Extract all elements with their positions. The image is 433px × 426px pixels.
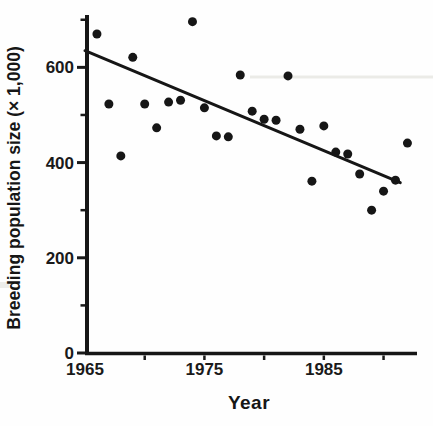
data-point (284, 71, 293, 80)
data-point (272, 116, 281, 125)
data-point (319, 121, 328, 130)
data-point (128, 53, 137, 62)
y-tick-label: 400 (46, 154, 74, 173)
data-point (224, 132, 233, 141)
data-point (236, 70, 245, 79)
trend-line (85, 51, 400, 183)
data-point (260, 115, 269, 124)
data-point (343, 150, 352, 159)
y-axis-title: Breeding population size (× 1,000) (4, 46, 24, 329)
data-point (164, 98, 173, 107)
scatter-figure: 0200400600196519751985 Year Breeding pop… (0, 0, 433, 426)
data-point (104, 100, 113, 109)
scatter-plot: 0200400600196519751985 Year Breeding pop… (0, 0, 433, 426)
data-point (331, 148, 340, 157)
data-point (116, 151, 125, 160)
x-tick-label: 1965 (66, 360, 104, 379)
data-point (379, 187, 388, 196)
data-point (152, 123, 161, 132)
data-point (367, 206, 376, 215)
y-tick-label: 600 (46, 58, 74, 77)
y-tick-label: 200 (46, 249, 74, 268)
data-point (391, 176, 400, 185)
data-point (295, 125, 304, 134)
data-point (188, 17, 197, 26)
data-point (307, 177, 316, 186)
data-point (355, 170, 364, 179)
x-axis-title: Year (228, 392, 270, 413)
data-point (212, 131, 221, 140)
data-point (140, 100, 149, 109)
data-point (248, 107, 257, 116)
data-point (92, 30, 101, 39)
data-point (176, 96, 185, 105)
data-point (403, 139, 412, 148)
data-point (200, 103, 209, 112)
x-tick-label: 1985 (305, 360, 343, 379)
x-tick-label: 1975 (186, 360, 224, 379)
